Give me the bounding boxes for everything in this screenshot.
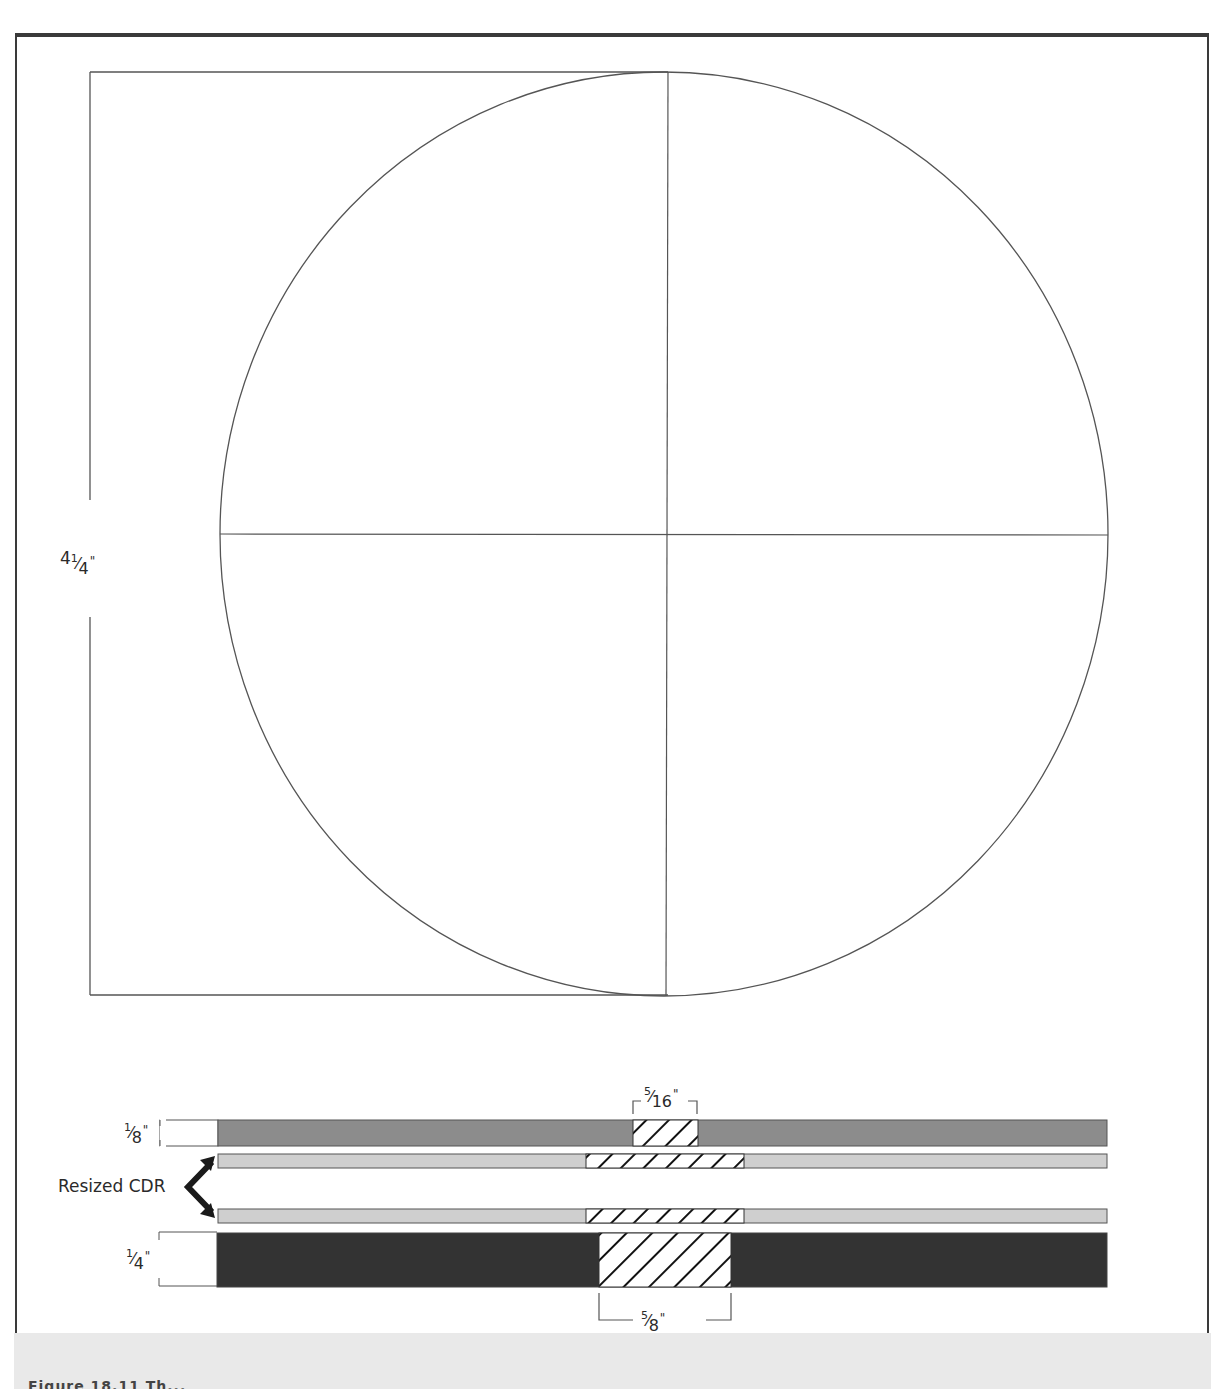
square-outline	[90, 72, 668, 995]
thick-strip-label: 1⁄4"	[126, 1244, 150, 1268]
strip-resized-lower	[218, 1209, 1107, 1223]
crosshair-horizontal	[220, 534, 1108, 535]
caption-bar	[14, 1333, 1211, 1389]
resized-cdr-label: Resized CDR	[58, 1176, 165, 1196]
strip-resized-upper	[218, 1154, 1107, 1168]
thin-strip-label: 1⁄8"	[124, 1118, 148, 1142]
strip-thin-top	[160, 1101, 1107, 1147]
height-dimension-label: 4 1⁄4"	[60, 548, 95, 573]
top-gap-label: 5⁄16"	[644, 1082, 679, 1106]
figure-caption: Figure 18.11 Th...	[28, 1378, 186, 1389]
double-arrow-icon	[188, 1156, 215, 1218]
cdr-template-diagram	[0, 0, 1217, 1389]
strip-thick-bottom	[159, 1232, 1107, 1320]
bottom-gap-label: 5⁄8"	[641, 1306, 665, 1330]
